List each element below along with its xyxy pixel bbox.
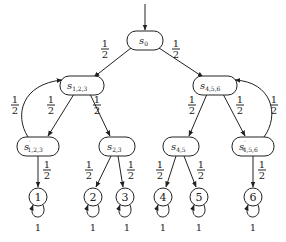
self-loops xyxy=(32,205,259,217)
prob-s0-s456: 12 xyxy=(172,38,180,60)
svg-text:1: 1 xyxy=(94,94,100,105)
svg-text:1: 1 xyxy=(102,38,108,49)
svg-text:1: 1 xyxy=(86,159,92,170)
svg-text:1: 1 xyxy=(44,159,50,170)
svg-text:2: 2 xyxy=(198,170,204,181)
prob-s456-s45: 12 xyxy=(188,94,196,116)
svg-text:6: 6 xyxy=(250,191,257,204)
self-loop-labels: 1 1 1 1 1 1 xyxy=(35,222,256,233)
svg-text:4: 4 xyxy=(160,191,167,204)
edge-s23-d2 xyxy=(96,156,111,187)
edge-s0-s123 xyxy=(94,48,131,77)
svg-text:2: 2 xyxy=(173,49,179,60)
edge-probability-labels: 12 12 12 12 12 12 12 12 12 12 12 12 12 1… xyxy=(11,38,278,181)
svg-text:1: 1 xyxy=(35,191,42,204)
prob-s0-s123: 12 xyxy=(101,38,109,60)
prob-s23-d2: 12 xyxy=(85,159,93,181)
svg-text:1: 1 xyxy=(124,222,130,233)
node-s0: s0 xyxy=(127,31,163,50)
edge-s45-d5 xyxy=(184,156,196,187)
svg-text:2: 2 xyxy=(259,170,265,181)
node-s123: s1,2,3 xyxy=(60,76,104,95)
prob-s123p-d1: 12 xyxy=(43,159,51,181)
prob-s456p-s456: 12 xyxy=(270,94,278,116)
svg-text:2: 2 xyxy=(48,105,54,116)
svg-text:3: 3 xyxy=(122,191,129,204)
svg-text:2: 2 xyxy=(12,105,18,116)
edge-s45-d4 xyxy=(166,156,176,187)
node-5: 5 xyxy=(190,188,208,206)
svg-text:1: 1 xyxy=(271,94,277,105)
svg-text:1: 1 xyxy=(189,94,195,105)
svg-text:2: 2 xyxy=(128,170,134,181)
prob-s45-d5: 12 xyxy=(197,159,205,181)
svg-text:1: 1 xyxy=(128,159,134,170)
prob-s45-d4: 12 xyxy=(156,159,164,181)
svg-text:1: 1 xyxy=(198,159,204,170)
node-s456: s4,5,6 xyxy=(193,76,237,95)
svg-text:2: 2 xyxy=(86,170,92,181)
edge-s23-d3 xyxy=(118,156,123,187)
svg-text:1: 1 xyxy=(160,222,166,233)
node-6: 6 xyxy=(244,188,262,206)
node-3: 3 xyxy=(116,188,134,206)
prob-s456p-d6: 12 xyxy=(258,159,266,181)
svg-text:1: 1 xyxy=(259,159,265,170)
prob-s123p-s123: 12 xyxy=(11,94,19,116)
node-s45: s4,5 xyxy=(163,137,199,156)
svg-text:2: 2 xyxy=(157,170,163,181)
node-2: 2 xyxy=(84,188,102,206)
prob-s123-s123p: 12 xyxy=(47,94,55,116)
node-1: 1 xyxy=(29,188,47,206)
node-s456-prime: s′4,5,6 xyxy=(232,137,274,156)
markov-chain-diagram: s0 s1,2,3 s4,5,6 s′1,2,3 s2,3 s4,5 s′4,5… xyxy=(0,0,286,242)
prob-s23-d3: 12 xyxy=(127,159,135,181)
svg-text:1: 1 xyxy=(196,222,202,233)
node-s123-prime: s′1,2,3 xyxy=(17,137,59,156)
prob-s123-s23: 12 xyxy=(93,94,101,116)
svg-text:2: 2 xyxy=(102,49,108,60)
svg-text:1: 1 xyxy=(237,94,243,105)
svg-text:5: 5 xyxy=(196,191,203,204)
svg-text:1: 1 xyxy=(157,159,163,170)
prob-s456-s456p: 12 xyxy=(236,94,244,116)
svg-text:1: 1 xyxy=(250,222,256,233)
svg-text:2: 2 xyxy=(271,105,277,116)
node-s23: s2,3 xyxy=(99,137,135,156)
edge-s123p-s123 xyxy=(22,80,62,137)
svg-text:2: 2 xyxy=(90,191,97,204)
svg-text:1: 1 xyxy=(48,94,54,105)
svg-text:2: 2 xyxy=(189,105,195,116)
svg-text:2: 2 xyxy=(94,105,100,116)
svg-text:2: 2 xyxy=(44,170,50,181)
svg-text:1: 1 xyxy=(90,222,96,233)
svg-text:2: 2 xyxy=(237,105,243,116)
svg-text:1: 1 xyxy=(173,38,179,49)
node-4: 4 xyxy=(154,188,172,206)
svg-text:1: 1 xyxy=(35,222,41,233)
svg-text:1: 1 xyxy=(12,94,18,105)
edge-s0-s456 xyxy=(159,48,203,77)
